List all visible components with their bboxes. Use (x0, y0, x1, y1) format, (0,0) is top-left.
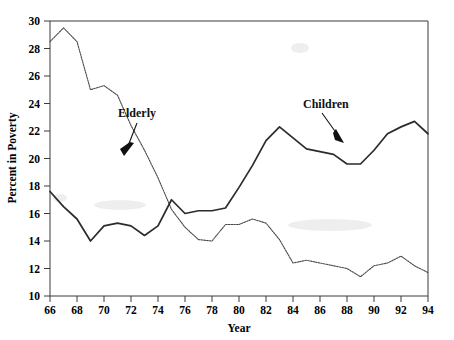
chart-page: 10 12 14 16 18 20 22 24 26 28 30 (0, 0, 454, 340)
x-tick-label: 78 (206, 304, 218, 316)
y-tick-label: 26 (29, 70, 41, 82)
x-tick-label: 94 (422, 304, 434, 316)
y-tick-label: 20 (29, 153, 41, 165)
y-axis-tick-labels: 10 12 14 16 18 20 22 24 26 28 30 (29, 15, 41, 302)
y-tick-label: 28 (29, 43, 41, 55)
x-tick-label: 72 (125, 304, 137, 316)
x-tick-label: 84 (287, 304, 299, 316)
x-tick-label: 76 (179, 304, 191, 316)
x-tick-label: 90 (368, 304, 380, 316)
paper-smudges (53, 43, 372, 231)
x-tick-label: 88 (341, 304, 353, 316)
y-axis-ticks (44, 21, 50, 296)
x-tick-label: 68 (71, 304, 83, 316)
x-tick-label: 82 (260, 304, 272, 316)
y-tick-label: 24 (29, 98, 41, 110)
y-tick-label: 16 (29, 208, 41, 220)
annotation-label-elderly: Elderly (118, 106, 156, 120)
series-line-children (50, 121, 428, 241)
annotation-elderly: Elderly (118, 106, 156, 156)
y-tick-label: 14 (29, 235, 41, 247)
y-tick-label: 30 (29, 15, 41, 27)
y-tick-label: 10 (29, 290, 41, 302)
x-axis-ticks (50, 296, 428, 302)
x-axis-title: Year (228, 322, 251, 334)
x-tick-label: 92 (395, 304, 407, 316)
y-tick-label: 12 (29, 263, 41, 275)
x-axis-tick-labels: 66 68 70 72 74 76 78 80 82 84 86 88 90 9… (44, 304, 434, 316)
annotation-label-children: Children (303, 97, 349, 111)
x-tick-label: 86 (314, 304, 326, 316)
annotation-children: Children (303, 97, 349, 143)
y-tick-label: 18 (29, 180, 41, 192)
y-axis-title: Percent in Poverty (6, 112, 19, 203)
x-tick-label: 74 (152, 304, 164, 316)
x-tick-label: 66 (44, 304, 56, 316)
poverty-line-chart: 10 12 14 16 18 20 22 24 26 28 30 (0, 0, 454, 340)
plot-axes (50, 21, 428, 296)
x-tick-label: 70 (98, 304, 110, 316)
x-tick-label: 80 (233, 304, 245, 316)
y-tick-label: 22 (29, 125, 41, 137)
